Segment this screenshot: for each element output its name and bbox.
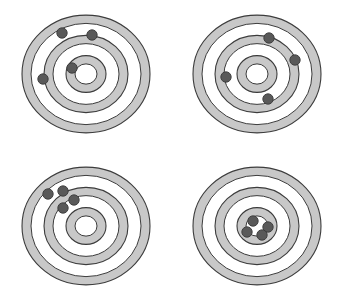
- shot-marker: [248, 216, 258, 226]
- figure-root: [0, 0, 348, 303]
- target-top-right: [193, 15, 321, 133]
- targets-canvas: [0, 0, 348, 303]
- shot-marker: [263, 94, 273, 104]
- target-ring-5: [75, 216, 97, 236]
- shot-marker: [290, 55, 300, 65]
- shot-marker: [58, 203, 68, 213]
- shot-marker: [264, 33, 274, 43]
- target-bottom-right: [193, 167, 321, 285]
- shot-marker: [221, 72, 231, 82]
- shot-marker: [242, 227, 252, 237]
- shot-marker: [69, 195, 79, 205]
- shot-marker: [67, 63, 77, 73]
- target-top-left: [22, 15, 150, 133]
- target-bottom-left: [22, 167, 150, 285]
- target-ring-5: [75, 64, 97, 84]
- shot-marker: [57, 28, 67, 38]
- shot-marker: [87, 30, 97, 40]
- shot-marker: [43, 189, 53, 199]
- shot-marker: [257, 230, 267, 240]
- shot-marker: [58, 186, 68, 196]
- shot-marker: [38, 74, 48, 84]
- target-ring-5: [246, 64, 268, 84]
